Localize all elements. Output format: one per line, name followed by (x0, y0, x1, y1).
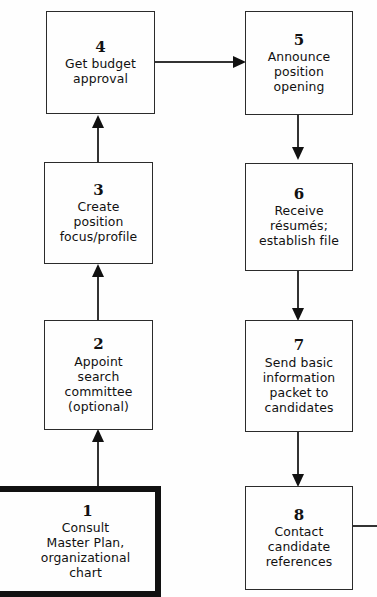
flowchart-node-7-number: 7 (294, 337, 304, 354)
connector-8-to-offpage-line (352, 525, 377, 527)
connector-2-to-3-arrowhead (92, 264, 104, 277)
flowchart-node-7-label: Send basic information packet to candida… (259, 355, 340, 416)
flowchart-node-3-label: Create position focus/profile (56, 199, 142, 244)
flowchart-node-2-label: Appoint search committee (optional) (61, 354, 137, 415)
connector-1-to-2-arrowhead (92, 429, 104, 442)
flowchart-node-3-number: 3 (93, 182, 103, 199)
connector-3-to-4-line (97, 126, 99, 163)
flowchart-node-8-number: 8 (294, 507, 304, 524)
flowchart-node-2[interactable]: 2 Appoint search committee (optional) (44, 320, 153, 430)
flowchart-canvas: 4 Get budget approval 5 Announce positio… (0, 0, 377, 597)
flowchart-node-1[interactable]: 1 Consult Master Plan, organizational ch… (0, 486, 161, 597)
flowchart-node-1-number: 1 (54, 503, 92, 520)
flowchart-node-3[interactable]: 3 Create position focus/profile (44, 162, 153, 264)
connector-5-to-6-line (297, 114, 299, 149)
flowchart-node-4[interactable]: 4 Get budget approval (46, 11, 155, 114)
flowchart-node-5[interactable]: 5 Announce position opening (245, 11, 353, 115)
flowchart-node-6[interactable]: 6 Receive résumés; establish file (245, 163, 353, 271)
flowchart-node-4-label: Get budget approval (61, 56, 140, 86)
connector-3-to-4-arrowhead (92, 115, 104, 128)
flowchart-node-8-label: Contact candidate references (262, 524, 337, 569)
connector-4-to-5-line (154, 61, 236, 63)
flowchart-node-1-label: Consult Master Plan, organizational char… (13, 520, 134, 581)
connector-7-to-8-line (297, 432, 299, 477)
flowchart-node-6-number: 6 (294, 186, 304, 203)
connector-1-to-2-line (97, 440, 99, 487)
flowchart-node-5-label: Announce position opening (264, 49, 335, 94)
connector-5-to-6-arrowhead (292, 147, 304, 160)
flowchart-node-4-number: 4 (95, 39, 105, 56)
connector-6-to-7-line (297, 271, 299, 311)
flowchart-node-2-number: 2 (93, 336, 103, 353)
flowchart-node-8[interactable]: 8 Contact candidate references (245, 486, 353, 590)
connector-2-to-3-line (97, 275, 99, 321)
flowchart-node-5-number: 5 (294, 32, 304, 49)
flowchart-node-6-label: Receive résumés; establish file (255, 203, 343, 248)
flowchart-node-7[interactable]: 7 Send basic information packet to candi… (245, 320, 353, 432)
